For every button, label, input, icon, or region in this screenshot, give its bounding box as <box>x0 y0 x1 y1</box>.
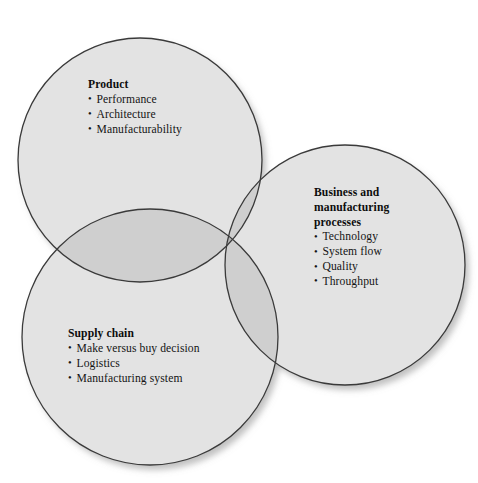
label-group-business: Business and manufacturing processes Tec… <box>314 186 389 290</box>
list-item: Quality <box>314 260 389 275</box>
list-item: Technology <box>314 230 389 245</box>
list-item: System flow <box>314 245 389 260</box>
set-title-business-line3: processes <box>314 216 389 230</box>
list-item: Manufacturability <box>88 123 182 138</box>
set-title-business-line2: manufacturing <box>314 201 389 215</box>
set-title-supply: Supply chain <box>68 327 200 341</box>
venn-diagram: Product Performance Architecture Manufac… <box>0 0 478 483</box>
set-title-product: Product <box>88 78 182 92</box>
list-item: Architecture <box>88 108 182 123</box>
set-items-supply: Make versus buy decision Logistics Manuf… <box>68 342 200 387</box>
set-items-product: Performance Architecture Manufacturabili… <box>88 93 182 138</box>
list-item: Manufacturing system <box>68 372 200 387</box>
list-item: Make versus buy decision <box>68 342 200 357</box>
set-items-business: Technology System flow Quality Throughpu… <box>314 230 389 290</box>
list-item: Throughput <box>314 275 389 290</box>
list-item: Logistics <box>68 357 200 372</box>
label-group-supply: Supply chain Make versus buy decision Lo… <box>68 327 200 386</box>
set-title-business-line1: Business and <box>314 186 389 200</box>
venn-circles-canvas <box>0 0 478 483</box>
list-item: Performance <box>88 93 182 108</box>
label-group-product: Product Performance Architecture Manufac… <box>88 78 182 137</box>
